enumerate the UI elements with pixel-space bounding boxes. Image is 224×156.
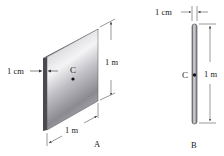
figure-label-b: B <box>191 140 197 150</box>
plate-b <box>192 24 197 124</box>
thickness-label-b: 1 cm <box>155 7 172 17</box>
plate-a-edge <box>43 57 47 131</box>
center-label-b: C <box>182 70 188 80</box>
center-label-a: C <box>70 65 76 75</box>
thickness-label-a: 1 cm <box>7 66 24 76</box>
plate-a <box>43 29 99 131</box>
thickness-dimension-b <box>181 6 208 21</box>
center-point-a <box>71 77 74 80</box>
height-label-b: 1 m <box>204 69 217 79</box>
center-point-b <box>193 73 196 76</box>
height-label-a: 1 m <box>105 57 118 67</box>
figure-label-a: A <box>94 139 101 149</box>
width-label-a: 1 m <box>65 125 78 135</box>
diagram-canvas: C 1 cm 1 m 1 m A C 1 cm 1 <box>0 0 224 156</box>
